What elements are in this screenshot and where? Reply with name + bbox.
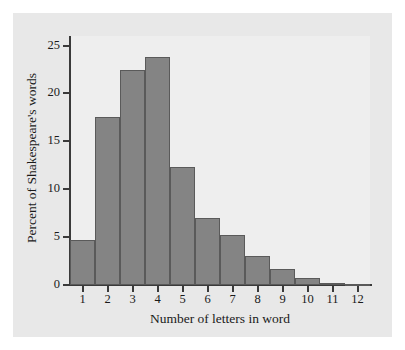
histogram-bar xyxy=(295,278,320,285)
x-tick-label: 3 xyxy=(121,293,145,306)
histogram-bar xyxy=(70,240,95,285)
histogram-bar xyxy=(320,283,345,285)
histogram-bar xyxy=(145,57,170,285)
x-axis-title: Number of letters in word xyxy=(70,311,370,327)
x-tick-label: 12 xyxy=(346,293,370,306)
x-tick-label: 2 xyxy=(96,293,120,306)
histogram-bar xyxy=(270,269,295,285)
histogram-bar xyxy=(195,218,220,285)
x-tick-label: 9 xyxy=(271,293,295,306)
y-tick-mark xyxy=(63,45,69,47)
x-tick-label: 7 xyxy=(221,293,245,306)
x-tick-label: 8 xyxy=(246,293,270,306)
x-tick-label: 10 xyxy=(296,293,320,306)
x-tick-label: 1 xyxy=(71,293,95,306)
x-tick-label: 4 xyxy=(146,293,170,306)
histogram-bar xyxy=(170,167,195,285)
y-axis-title: Percent of Shakespeare's words xyxy=(24,48,40,268)
histogram-bar xyxy=(95,117,120,285)
histogram-bar xyxy=(245,256,270,285)
y-tick-mark xyxy=(63,92,69,94)
y-tick-mark xyxy=(63,236,69,238)
histogram-bar xyxy=(220,235,245,285)
y-tick-mark xyxy=(63,140,69,142)
y-tick-label: 0 xyxy=(34,278,60,291)
histogram-figure: 0510152025 123456789101112 Percent of Sh… xyxy=(0,0,405,350)
y-tick-mark xyxy=(63,284,69,286)
x-tick-label: 5 xyxy=(171,293,195,306)
x-tick-label: 11 xyxy=(321,293,345,306)
histogram-bar xyxy=(345,284,370,286)
histogram-bar xyxy=(120,70,145,285)
y-tick-mark xyxy=(63,188,69,190)
x-tick-label: 6 xyxy=(196,293,220,306)
